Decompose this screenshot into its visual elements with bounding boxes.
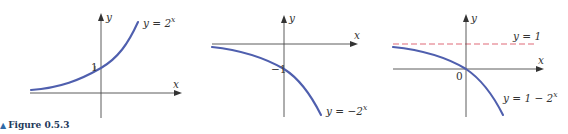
curve-2x — [31, 22, 138, 90]
intercept-label: −1 — [271, 63, 286, 75]
y-axis-label: y — [105, 11, 113, 23]
x-axis-label: x — [354, 29, 360, 41]
curve-label: y = 2x — [142, 15, 176, 29]
curve-1-minus-2x — [393, 47, 503, 115]
asymptote-label: y = 1 — [512, 30, 541, 42]
y-axis-arrow-icon — [281, 15, 287, 23]
origin-label: 0 — [456, 70, 463, 82]
y-axis-arrow-icon — [463, 14, 469, 22]
x-axis-arrow-icon — [350, 41, 358, 47]
curve-label: y = 1 − 2x — [502, 90, 558, 104]
triangle-marker-icon: ▲ — [0, 120, 6, 130]
y-axis-arrow-icon — [98, 13, 104, 21]
caption-text: Figure 0.5.3 — [8, 120, 69, 130]
graph-one-minus-exp-2x: y = 1 x y 0 y = 1 − 2x — [393, 12, 558, 117]
figure-caption: ▲Figure 0.5.3 — [0, 120, 69, 130]
graph-exp-2x: x y 1 y = 2x — [30, 11, 182, 118]
x-axis-label: x — [173, 78, 179, 90]
figure-graphs: x y 1 y = 2x x y −1 y = −2x y = 1 x y 0 … — [0, 0, 568, 134]
x-axis-label: x — [538, 54, 544, 66]
x-axis-arrow-icon — [174, 90, 182, 96]
intercept-label: 1 — [91, 61, 98, 73]
curve-neg-2x — [212, 47, 321, 115]
y-axis-label: y — [470, 12, 478, 24]
graph-neg-exp-2x: x y −1 y = −2x — [212, 12, 368, 117]
x-axis-arrow-icon — [536, 66, 544, 72]
y-axis-label: y — [288, 12, 296, 24]
curve-label: y = −2x — [325, 103, 368, 117]
